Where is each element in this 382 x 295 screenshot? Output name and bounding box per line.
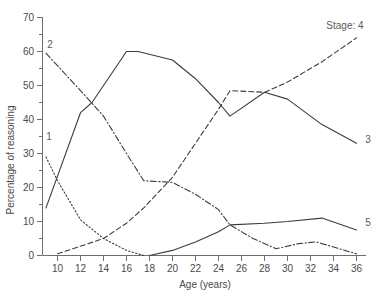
y-tick-label-20: 20 (23, 182, 35, 193)
x-tick-label-36: 36 (351, 263, 363, 274)
series-label-5: 5 (365, 217, 371, 228)
x-tick-label-32: 32 (305, 263, 317, 274)
y-tick-label-60: 60 (23, 46, 35, 57)
y-axis-ticks (37, 18, 43, 256)
series-line-4 (58, 38, 357, 254)
series-label-4: Stage: 4 (326, 20, 364, 31)
x-tick-label-24: 24 (213, 263, 225, 274)
x-tick-label-18: 18 (144, 263, 156, 274)
x-tick-label-16: 16 (121, 263, 133, 274)
line-chart-plot: Percentage of reasoning 70 60 50 40 30 (0, 0, 382, 295)
y-tick-label-40: 40 (23, 114, 35, 125)
x-tick-label-10: 10 (52, 263, 64, 274)
x-axis-ticks (58, 256, 357, 262)
y-axis-title: Percentage of reasoning (5, 106, 16, 215)
x-tick-label-34: 34 (328, 263, 340, 274)
y-tick-label-10: 10 (23, 216, 35, 227)
y-tick-label-70: 70 (23, 12, 35, 23)
series-label-3: 3 (365, 134, 371, 145)
series-line-2 (46, 53, 357, 254)
series-line-5 (150, 218, 357, 255)
series-group (46, 38, 357, 256)
x-axis-title: Age (years) (179, 279, 231, 290)
y-tick-label-30: 30 (23, 148, 35, 159)
x-tick-label-20: 20 (167, 263, 179, 274)
x-tick-label-14: 14 (98, 263, 110, 274)
chart-container: Percentage of reasoning 70 60 50 40 30 (0, 0, 382, 295)
x-tick-label-26: 26 (236, 263, 248, 274)
y-tick-label-50: 50 (23, 80, 35, 91)
series-label-2: 2 (47, 39, 53, 50)
series-line-3 (46, 52, 357, 208)
x-tick-label-22: 22 (190, 263, 202, 274)
x-tick-label-12: 12 (75, 263, 87, 274)
x-tick-label-28: 28 (259, 263, 271, 274)
y-tick-label-0: 0 (28, 250, 34, 261)
series-line-1 (46, 157, 144, 256)
series-label-1: 1 (46, 131, 52, 142)
x-tick-label-30: 30 (282, 263, 294, 274)
